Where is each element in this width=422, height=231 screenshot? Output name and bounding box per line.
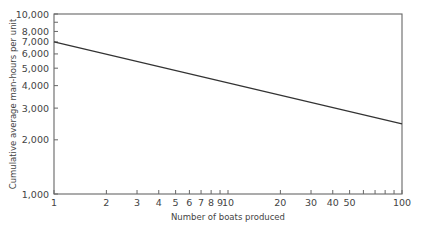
y-tick-label: 4,000 [22,80,49,91]
x-axis-label: Number of boats produced [171,212,285,222]
plot-frame [54,14,402,194]
x-tick-label: 4 [156,197,162,208]
y-axis-label: Cumulative average man-hours per unit [8,18,18,189]
learning-curve-chart: 1,0002,0003,0004,0005,0006,0007,0008,000… [0,0,422,231]
y-tick-label: 7,000 [22,36,49,47]
y-tick-label: 3,000 [22,103,49,114]
y-tick-label: 6,000 [22,48,49,59]
y-tick-label: 5,000 [22,63,49,74]
x-tick-label: 100 [393,197,411,208]
y-tick-label: 2,000 [22,134,49,145]
x-tick-label: 6 [186,197,192,208]
x-tick-label: 10 [222,197,234,208]
x-tick-label: 1 [51,197,57,208]
data-series [54,42,402,124]
x-tick-label: 7 [198,197,204,208]
y-tick-label: 10,000 [16,9,49,20]
y-tick-label: 1,000 [22,189,49,200]
x-tick-label: 5 [173,197,179,208]
x-tick-label: 30 [305,197,317,208]
x-tick-label: 2 [103,197,109,208]
y-axis-ticks: 1,0002,0003,0004,0005,0006,0007,0008,000… [16,9,58,200]
x-tick-label: 40 [327,197,339,208]
series-line [54,42,402,124]
y-tick-label: 8,000 [22,26,49,37]
x-tick-label: 8 [208,197,214,208]
x-tick-label: 20 [274,197,286,208]
x-tick-label: 3 [134,197,140,208]
x-tick-label: 50 [344,197,356,208]
x-axis-ticks: 1234567891020304050100 [51,190,411,208]
